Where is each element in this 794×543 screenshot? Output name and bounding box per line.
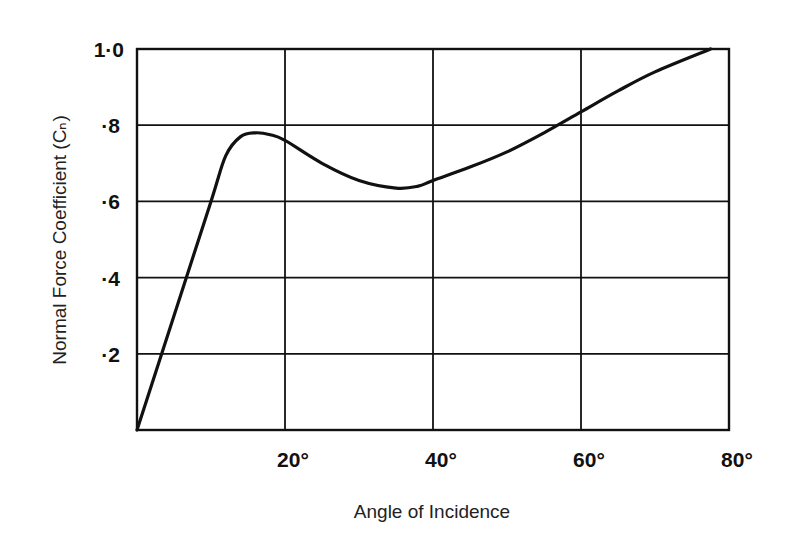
cn-curve bbox=[137, 49, 711, 430]
x-tick-label: 20° bbox=[277, 448, 309, 471]
x-axis-label: Angle of Incidence bbox=[354, 501, 510, 522]
y-tick-label: ·4 bbox=[101, 267, 120, 290]
x-tick-label: 80° bbox=[721, 448, 753, 471]
x-axis-ticks: 20°40°60°80° bbox=[277, 448, 753, 471]
x-tick-label: 40° bbox=[425, 448, 457, 471]
y-tick-label: ·2 bbox=[101, 343, 120, 366]
y-tick-label: 1·0 bbox=[94, 38, 124, 61]
chart: 1·0·8·6·4·2 20°40°60°80° Normal Force Co… bbox=[0, 0, 794, 543]
y-tick-label: ·6 bbox=[101, 190, 120, 213]
y-axis-ticks: 1·0·8·6·4·2 bbox=[94, 38, 124, 366]
y-tick-label: ·8 bbox=[101, 114, 120, 137]
x-tick-label: 60° bbox=[573, 448, 605, 471]
grid bbox=[137, 49, 729, 430]
y-axis-label: Normal Force Coefficient (Cₙ) bbox=[49, 115, 70, 364]
